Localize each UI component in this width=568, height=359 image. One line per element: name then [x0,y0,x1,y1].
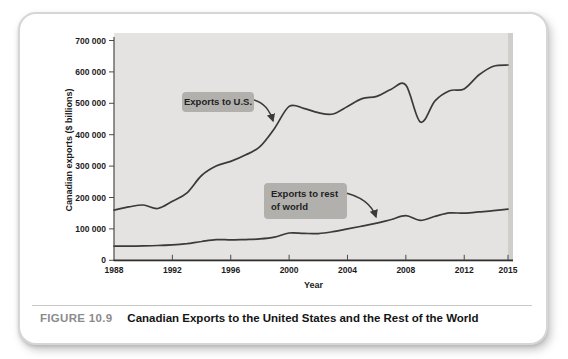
y-tick-label: 500 000 [75,98,106,108]
y-axis-title: Canadian exports ($ billions) [64,88,74,211]
figure-number: FIGURE 10.9 [40,312,112,324]
y-tick-label: 300 000 [75,161,106,171]
x-tick-label: 1996 [221,265,240,275]
annotation-row-line2: of world [271,200,341,213]
y-tick-label: 100 000 [75,224,106,234]
x-tick-label: 2015 [499,265,518,275]
figure-caption: FIGURE 10.9 Canadian Exports to the Unit… [40,312,536,324]
y-tick-label: 0 [101,255,106,265]
x-tick-label: 2000 [280,265,299,275]
chart-svg: 0100 000200 000300 000400 000500 000600 … [20,14,546,306]
y-tick-label: 600 000 [75,67,106,77]
annotation-exports-us: Exports to U.S. [182,92,254,112]
x-tick-label: 2008 [396,265,415,275]
y-tick-label: 200 000 [75,193,106,203]
x-tick-label: 2004 [338,265,357,275]
figure-card: 0100 000200 000300 000400 000500 000600 … [18,12,548,345]
chart-layer: 0100 000200 000300 000400 000500 000600 … [64,33,518,290]
x-tick-label: 1992 [163,265,182,275]
x-tick-label: 2012 [455,265,474,275]
figure-title: Canadian Exports to the United States an… [127,312,478,324]
x-axis-title: Year [304,280,324,290]
y-tick-label: 400 000 [75,130,106,140]
x-tick-label: 1988 [105,265,124,275]
plot-edge-shade [508,33,513,261]
plot-background [114,33,513,261]
caption-divider [32,305,532,306]
y-tick-label: 700 000 [75,36,106,46]
annotation-exports-rest-of-world: Exports to rest of world [264,183,347,219]
chart-area: 0100 000200 000300 000400 000500 000600 … [20,14,546,306]
annotation-row-line1: Exports to rest [271,187,341,200]
